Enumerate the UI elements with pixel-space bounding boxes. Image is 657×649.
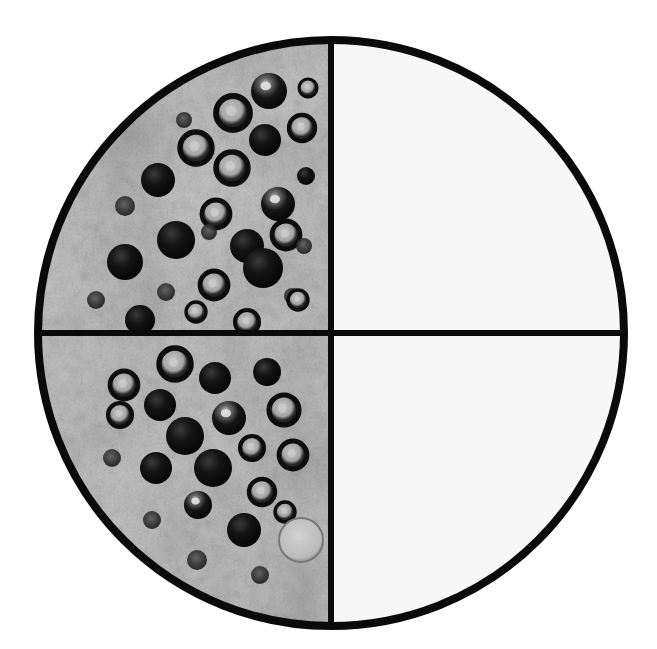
micrograph-figure: Circular microscope field of view with c… (0, 0, 657, 649)
microscope-field-view (0, 0, 657, 649)
